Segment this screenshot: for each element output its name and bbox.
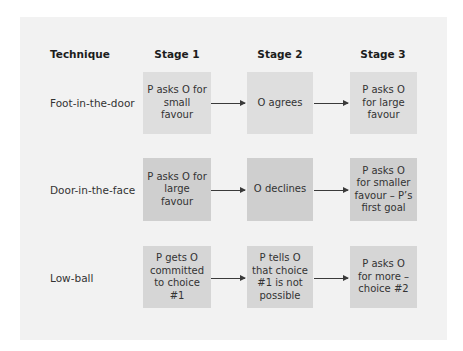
stage-2-box: O declines <box>247 158 313 221</box>
technique-label: Door-in-the-face <box>50 184 135 196</box>
stage-1-box: P asks O for large favour <box>143 158 211 221</box>
stage-1-box: P asks O for small favour <box>143 72 211 134</box>
technique-label: Low-ball <box>50 272 93 284</box>
header-technique: Technique <box>50 48 110 60</box>
arrow-right-icon <box>314 190 348 191</box>
header-stage-1: Stage 1 <box>154 48 199 60</box>
stage-2-box: P tells O that choice #1 is not possible <box>247 246 313 308</box>
header-stage-3: Stage 3 <box>360 48 405 60</box>
technique-label: Foot-in-the-door <box>50 97 135 109</box>
stage-3-box: P asks O for smaller favour – P’s first … <box>350 158 417 221</box>
arrow-right-icon <box>314 278 348 279</box>
arrow-right-icon <box>211 190 245 191</box>
stage-3-box: P asks O for large favour <box>350 72 417 134</box>
stage-3-box: P asks O for more – choice #2 <box>350 246 417 308</box>
arrow-right-icon <box>211 278 245 279</box>
header-stage-2: Stage 2 <box>257 48 302 60</box>
arrow-right-icon <box>211 103 245 104</box>
stage-2-box: O agrees <box>247 72 313 134</box>
stage-1-box: P gets O committed to choice #1 <box>143 246 211 308</box>
arrow-right-icon <box>314 103 348 104</box>
